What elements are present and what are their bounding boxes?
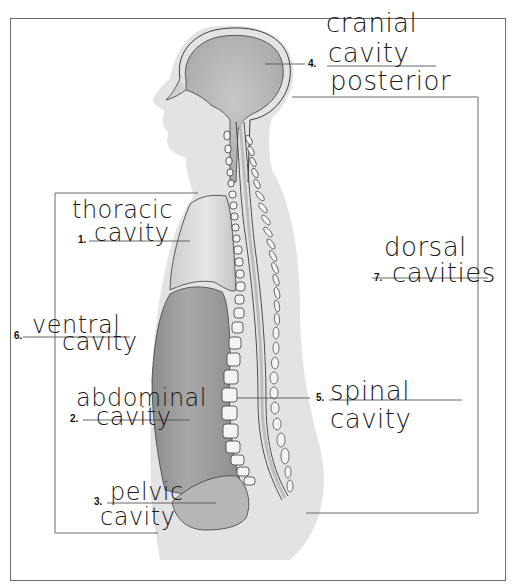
answer-6-line-2[interactable]: cavity	[62, 330, 137, 354]
answer-5-line-2[interactable]: cavity	[330, 406, 411, 432]
label-number-7: 7.	[374, 272, 382, 283]
thoracic-cavity	[170, 195, 236, 291]
answer-4-line-1[interactable]: cranial	[326, 10, 417, 36]
answer-4-line-2[interactable]: cavity	[328, 40, 409, 66]
answer-1-line-2[interactable]: cavity	[94, 221, 169, 245]
label-number-2: 2.	[70, 413, 78, 424]
answer-7-line-2[interactable]: cavities	[392, 260, 496, 286]
answer-2-line-2[interactable]: cavity	[96, 405, 171, 429]
label-number-6: 6.	[14, 330, 22, 341]
label-number-1: 1.	[78, 234, 86, 245]
answer-7-line-1[interactable]: dorsal	[384, 234, 467, 260]
answer-4-line-3[interactable]: posterior	[330, 68, 451, 94]
answer-5-line-1[interactable]: spinal	[330, 378, 410, 404]
label-number-5: 5.	[316, 392, 324, 403]
answer-3-line-1[interactable]: pelvic	[110, 480, 184, 504]
answer-3-line-2[interactable]: cavity	[100, 505, 175, 529]
label-number-4: 4.	[308, 58, 316, 69]
